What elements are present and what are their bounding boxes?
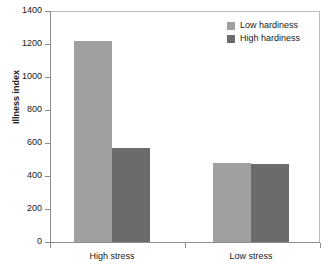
y-axis-tick-label: 400: [27, 171, 42, 180]
x-axis-category-label: Low stress: [191, 252, 311, 261]
bar-low-hardiness: [213, 163, 251, 242]
bar-chart: Illness index 0200400600800100012001400 …: [0, 0, 331, 272]
y-axis-tick-label: 1200: [22, 39, 42, 48]
bar-low-hardiness: [74, 41, 112, 242]
y-axis-tick-label: 200: [27, 204, 42, 213]
legend-swatch-icon: [227, 35, 235, 43]
x-axis-tick: [50, 243, 51, 248]
bar-high-hardiness: [112, 148, 150, 242]
y-axis-tick-label: 800: [27, 105, 42, 114]
legend: Low hardiness High hardiness: [222, 15, 306, 49]
y-axis-tick-label: 600: [27, 138, 42, 147]
legend-label: High hardiness: [240, 34, 300, 43]
y-axis-tick-label: 0: [37, 237, 42, 246]
y-axis-title: Illness index: [11, 49, 21, 145]
x-axis-category-label: High stress: [52, 252, 172, 261]
bar-high-hardiness: [251, 164, 289, 242]
legend-label: Low hardiness: [240, 21, 298, 30]
legend-item: Low hardiness: [227, 19, 300, 32]
x-axis-tick: [320, 243, 321, 248]
x-axis-tick: [185, 243, 186, 248]
legend-item: High hardiness: [227, 32, 300, 45]
legend-swatch-icon: [227, 22, 235, 30]
y-axis-tick-label: 1400: [22, 6, 42, 15]
y-axis-tick-label: 1000: [22, 72, 42, 81]
